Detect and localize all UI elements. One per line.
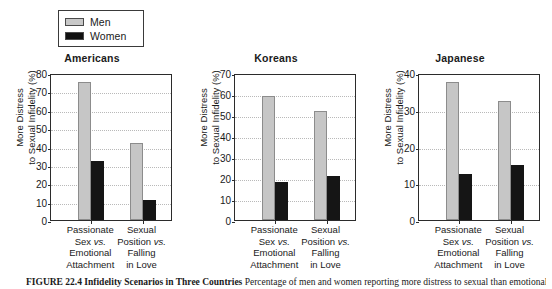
x-axis-label-line: in Love xyxy=(287,259,365,271)
y-tick-mark xyxy=(416,185,419,186)
y-tick-label: 40 xyxy=(36,144,47,154)
y-tick-mark xyxy=(232,75,235,76)
chart-panels: AmericansMore Distressto Sexual Infideli… xyxy=(0,52,552,274)
chart-panel-koreans: KoreansMore Distressto Sexual Infidelity… xyxy=(184,52,368,274)
y-tick-mark xyxy=(48,204,51,205)
bar-women xyxy=(511,165,524,220)
y-tick-mark xyxy=(232,96,235,97)
y-tick-label: 70 xyxy=(36,88,47,98)
x-axis-label-line: in Love xyxy=(471,259,549,271)
gridline xyxy=(51,185,171,186)
legend-label-men: Men xyxy=(90,17,111,28)
y-tick-mark xyxy=(232,180,235,181)
y-axis-label: More Distressto Sexual Infidelity (%) xyxy=(382,62,405,174)
y-tick-mark xyxy=(232,138,235,139)
figure-number: FIGURE 22.4 xyxy=(26,277,82,287)
y-axis-label: More Distressto Sexual Infidelity (%) xyxy=(14,62,37,174)
x-axis-label-line: Falling xyxy=(287,247,365,259)
gridline xyxy=(51,149,171,150)
chart-panel-americans: AmericansMore Distressto Sexual Infideli… xyxy=(0,52,184,274)
chart-panel-japanese: JapaneseMore Distressto Sexual Infidelit… xyxy=(368,52,552,274)
y-tick-mark xyxy=(48,75,51,76)
bar-men xyxy=(314,111,327,220)
legend-item-men: Men xyxy=(65,15,137,29)
y-tick-mark xyxy=(232,222,235,223)
y-tick-label: 30 xyxy=(36,162,47,172)
bar-women xyxy=(459,174,472,220)
y-tick-mark xyxy=(48,130,51,131)
y-tick-label: 40 xyxy=(404,70,415,80)
x-axis-label-line: in Love xyxy=(103,259,181,271)
gridline xyxy=(419,112,539,113)
x-axis-label: SexualPosition vs.Fallingin Love xyxy=(471,224,549,270)
y-axis-label: More Distressto Sexual Infidelity (%) xyxy=(198,62,221,174)
y-tick-label: 70 xyxy=(220,70,231,80)
gridline xyxy=(51,130,171,131)
bar-women xyxy=(275,182,288,220)
y-tick-label: 0 xyxy=(41,217,47,227)
y-tick-label: 60 xyxy=(220,91,231,101)
plot-area: 010203040506070 xyxy=(234,74,356,221)
y-axis-label-line: More Distress xyxy=(382,62,394,174)
y-tick-label: 30 xyxy=(404,107,415,117)
y-tick-label: 20 xyxy=(220,175,231,185)
legend-label-women: Women xyxy=(90,31,127,42)
y-tick-mark xyxy=(48,222,51,223)
y-tick-label: 50 xyxy=(220,112,231,122)
x-axis-label-line: Position vs. xyxy=(103,236,181,248)
bar-men xyxy=(262,96,275,220)
plot-area: 01020304050607080 xyxy=(50,74,172,221)
bar-men xyxy=(446,82,459,220)
gridline xyxy=(51,93,171,94)
y-axis-label-line: More Distress xyxy=(198,62,210,174)
bar-men xyxy=(130,143,143,220)
y-tick-label: 40 xyxy=(220,133,231,143)
y-tick-mark xyxy=(416,75,419,76)
y-tick-label: 20 xyxy=(36,180,47,190)
y-tick-mark xyxy=(232,117,235,118)
gridline xyxy=(235,96,355,97)
x-axis-label-line: Falling xyxy=(471,247,549,259)
gridline xyxy=(419,149,539,150)
legend-item-women: Women xyxy=(65,29,137,43)
gridline xyxy=(51,112,171,113)
legend-swatch-women-icon xyxy=(65,32,84,40)
figure-caption-text: Percentage of men and women reporting mo… xyxy=(245,277,546,287)
x-axis-label-line: Falling xyxy=(103,247,181,259)
gridline xyxy=(235,159,355,160)
x-axis-label: SexualPosition vs.Fallingin Love xyxy=(287,224,365,270)
x-axis-label-line: Sexual xyxy=(103,224,181,236)
gridline xyxy=(235,138,355,139)
y-tick-mark xyxy=(48,149,51,150)
y-tick-label: 0 xyxy=(225,217,231,227)
y-tick-mark xyxy=(48,112,51,113)
bar-women xyxy=(91,161,104,220)
y-tick-mark xyxy=(48,93,51,94)
bar-men xyxy=(498,101,511,220)
y-tick-mark xyxy=(232,159,235,160)
y-tick-mark xyxy=(48,167,51,168)
figure-title: Infidelity Scenarios in Three Countries xyxy=(84,277,242,287)
x-axis-label: SexualPosition vs.Fallingin Love xyxy=(103,224,181,270)
y-tick-label: 0 xyxy=(409,217,415,227)
y-tick-label: 10 xyxy=(36,199,47,209)
x-axis-label-line: Sexual xyxy=(471,224,549,236)
chart-legend: Men Women xyxy=(58,10,144,47)
x-axis-label-line: Position vs. xyxy=(287,236,365,248)
y-axis-label-line: to Sexual Infidelity (%) xyxy=(25,62,37,174)
y-tick-label: 50 xyxy=(36,125,47,135)
bar-men xyxy=(78,82,91,220)
x-axis-label-line: Sexual xyxy=(287,224,365,236)
figure-caption: FIGURE 22.4 Infidelity Scenarios in Thre… xyxy=(26,277,546,288)
y-tick-label: 10 xyxy=(220,196,231,206)
y-axis-label-line: to Sexual Infidelity (%) xyxy=(393,62,405,174)
y-tick-mark xyxy=(416,149,419,150)
y-axis-label-line: to Sexual Infidelity (%) xyxy=(209,62,221,174)
y-tick-label: 80 xyxy=(36,70,47,80)
y-tick-label: 20 xyxy=(404,144,415,154)
x-axis-label-line: Position vs. xyxy=(471,236,549,248)
y-axis-label-line: More Distress xyxy=(14,62,26,174)
bar-women xyxy=(327,176,340,220)
gridline xyxy=(51,167,171,168)
y-tick-mark xyxy=(416,222,419,223)
